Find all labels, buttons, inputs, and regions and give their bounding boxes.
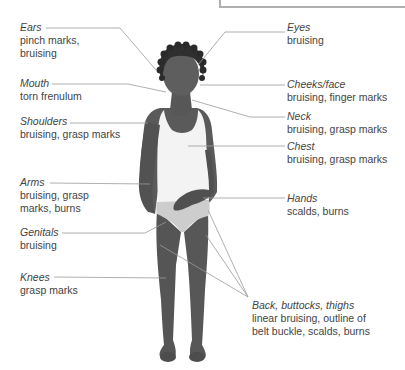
label-knees: Knees grasp marks: [20, 271, 78, 297]
part-name: Mouth: [20, 77, 82, 90]
left-leg: [156, 210, 181, 358]
label-hands: Hands scalds, burns: [287, 192, 349, 218]
finding-text: torn frenulum: [20, 90, 82, 103]
finding-text: marks, burns: [20, 202, 89, 215]
finding-text: grasp marks: [20, 284, 78, 297]
part-name: Hands: [287, 192, 349, 205]
injury-locations-diagram: Ears pinch marks, bruising Mouth torn fr…: [0, 0, 405, 370]
label-cheeks-face: Cheeks/face bruising, finger marks: [287, 78, 387, 104]
part-name: Shoulders: [20, 115, 120, 128]
finding-text: bruising: [20, 239, 59, 252]
part-name: Knees: [20, 271, 78, 284]
finding-text: bruising, grasp: [20, 189, 89, 202]
part-name: Ears: [20, 21, 80, 34]
label-shoulders: Shoulders bruising, grasp marks: [20, 115, 120, 141]
right-foot: [189, 352, 205, 362]
part-name: Neck: [287, 110, 387, 123]
part-name: Cheeks/face: [287, 78, 387, 91]
finding-text: linear bruising, outline of: [252, 312, 370, 325]
label-back-buttocks-thighs: Back, buttocks, thighs linear bruising, …: [252, 299, 370, 338]
finding-text: belt buckle, scalds, burns: [252, 325, 370, 338]
right-leg: [184, 210, 208, 358]
label-chest: Chest bruising, grasp marks: [287, 140, 387, 166]
label-neck: Neck bruising, grasp marks: [287, 110, 387, 136]
part-name: Genitals: [20, 226, 59, 239]
part-name: Chest: [287, 140, 387, 153]
finding-text: bruising, grasp marks: [287, 123, 387, 136]
label-ears: Ears pinch marks, bruising: [20, 21, 80, 60]
label-eyes: Eyes bruising: [287, 21, 324, 47]
finding-text: bruising: [20, 47, 80, 60]
frame-corner: [220, 0, 405, 7]
finding-text: pinch marks,: [20, 34, 80, 47]
finding-text: bruising: [287, 34, 324, 47]
part-name: Arms: [20, 176, 89, 189]
label-arms: Arms bruising, grasp marks, burns: [20, 176, 89, 215]
part-name: Eyes: [287, 21, 324, 34]
leader-genitals: [62, 222, 166, 233]
child-figure: [139, 42, 217, 363]
leader-back-1: [208, 210, 248, 297]
finding-text: scalds, burns: [287, 205, 349, 218]
finding-text: bruising, grasp marks: [20, 128, 120, 141]
part-name: Back, buttocks, thighs: [252, 299, 370, 312]
finding-text: bruising, finger marks: [287, 91, 387, 104]
label-genitals: Genitals bruising: [20, 226, 59, 252]
finding-text: bruising, grasp marks: [287, 153, 387, 166]
label-mouth: Mouth torn frenulum: [20, 77, 82, 103]
leader-back-2: [206, 235, 248, 297]
left-foot: [160, 352, 176, 362]
leader-eyes: [198, 32, 285, 65]
